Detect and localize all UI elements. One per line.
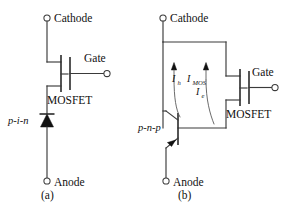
anode-label-a: Anode bbox=[54, 176, 85, 188]
pnp-collector-lead-b bbox=[166, 111, 178, 120]
cathode-label-b: Cathode bbox=[170, 12, 208, 24]
caption-a: (a) bbox=[41, 189, 54, 202]
current-label-ie-b: I e bbox=[195, 86, 205, 99]
circuit-diagram-canvas: Cathode Gate MOSFET p-i-n Anode (a) bbox=[0, 0, 285, 207]
current-path-imos-b bbox=[206, 80, 214, 124]
current-imos-subscript: MOS bbox=[192, 79, 207, 86]
circuit-a-group: Cathode Gate MOSFET p-i-n Anode (a) bbox=[7, 12, 110, 202]
current-imos-symbol: I bbox=[186, 73, 191, 84]
current-ie-symbol: I bbox=[195, 86, 200, 97]
anode-terminal-a[interactable] bbox=[44, 178, 50, 184]
current-label-imos-b: I MOS bbox=[186, 73, 207, 86]
anode-terminal-b[interactable] bbox=[163, 178, 169, 184]
pnp-label-b: p-n-p bbox=[137, 122, 161, 133]
current-label-ih-b: I h bbox=[171, 73, 182, 86]
pin-diode-triangle-a bbox=[41, 114, 54, 127]
mosfet-label-a: MOSFET bbox=[47, 94, 92, 106]
cathode-terminal-b[interactable] bbox=[160, 15, 166, 21]
pin-diode-label-a: p-i-n bbox=[7, 115, 28, 126]
cathode-label-a: Cathode bbox=[54, 12, 92, 24]
current-arrow-imos-b bbox=[203, 63, 208, 71]
current-ih-symbol: I bbox=[171, 73, 176, 84]
current-ih-subscript: h bbox=[178, 79, 182, 86]
current-arrow-ih-b bbox=[171, 63, 176, 71]
circuit-b-group: I h I MOS I e Cathode Gate MOSFET p-n-p … bbox=[137, 12, 278, 202]
mosfet-label-b: MOSFET bbox=[226, 108, 271, 120]
caption-b: (b) bbox=[178, 189, 192, 202]
current-ie-subscript: e bbox=[202, 92, 205, 99]
gate-label-a: Gate bbox=[84, 52, 106, 64]
cathode-terminal-a[interactable] bbox=[44, 15, 50, 21]
anode-label-b: Anode bbox=[173, 176, 204, 188]
figure-root: Cathode Gate MOSFET p-i-n Anode (a) bbox=[0, 0, 285, 207]
gate-terminal-b[interactable] bbox=[272, 84, 278, 90]
gate-terminal-a[interactable] bbox=[104, 70, 110, 76]
gate-label-b: Gate bbox=[252, 66, 274, 78]
